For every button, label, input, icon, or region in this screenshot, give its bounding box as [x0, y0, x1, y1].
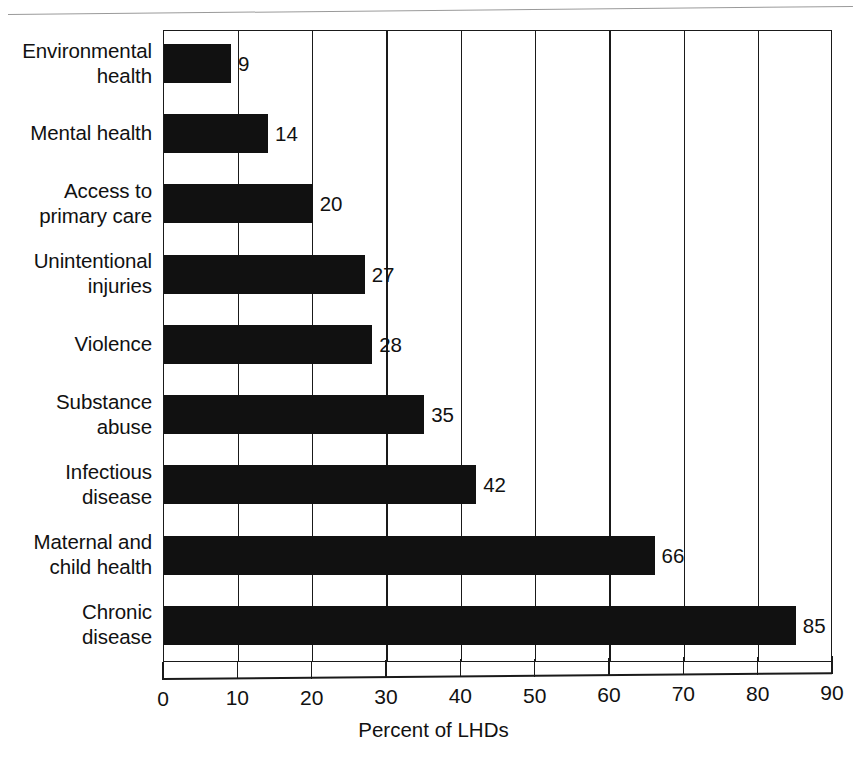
category-label-line: primary care	[0, 203, 152, 228]
x-tick-label-90: 90	[820, 680, 843, 706]
category-label: Access toprimary care	[0, 178, 152, 228]
category-label-line: disease	[0, 624, 152, 649]
bar-chart-figure: EnvironmentalhealthMental healthAccess t…	[0, 0, 867, 767]
x-tick-0	[162, 662, 164, 680]
category-label: Substanceabuse	[0, 389, 152, 439]
x-axis-title: Percent of LHDs	[0, 718, 867, 742]
x-tick-label-40: 40	[449, 683, 472, 709]
plot-area: 91420272835426685	[163, 30, 832, 662]
bar-value-label: 14	[268, 114, 298, 153]
category-label: Unintentionalinjuries	[0, 248, 152, 298]
bar	[164, 44, 231, 83]
bar	[164, 184, 313, 223]
category-label-line: Chronic	[0, 599, 152, 624]
x-tick-70	[683, 657, 685, 675]
x-tick-label-50: 50	[523, 683, 546, 709]
x-tick-label-30: 30	[374, 684, 397, 710]
bar-value-label: 85	[796, 606, 826, 645]
x-tick-label-20: 20	[300, 685, 323, 711]
category-label: Mental health	[0, 120, 152, 145]
x-axis-line	[163, 672, 832, 680]
bar-value-label: 66	[655, 536, 685, 575]
x-tick-50	[534, 659, 536, 677]
category-label-line: Environmental	[0, 38, 152, 63]
category-label-line: Substance	[0, 389, 152, 414]
bar	[164, 325, 372, 364]
category-label: Violence	[0, 331, 152, 356]
category-label: Maternal andchild health	[0, 529, 152, 579]
category-label-line: child health	[0, 554, 152, 579]
x-tick-20	[311, 661, 313, 679]
bar-value-label: 9	[231, 44, 249, 83]
category-label: Infectiousdisease	[0, 459, 152, 509]
bar	[164, 114, 268, 153]
bar	[164, 465, 476, 504]
category-label-line: Mental health	[0, 120, 152, 145]
x-tick-label-70: 70	[672, 681, 695, 707]
category-label-line: Access to	[0, 178, 152, 203]
category-label-line: Infectious	[0, 459, 152, 484]
bar-value-label: 35	[424, 395, 454, 434]
bar	[164, 255, 365, 294]
x-tick-30	[385, 660, 387, 678]
gridline-80	[758, 31, 760, 661]
x-tick-10	[237, 661, 239, 679]
x-tick-label-60: 60	[597, 682, 620, 708]
category-label-line: injuries	[0, 273, 152, 298]
category-label-line: health	[0, 63, 152, 88]
x-tick-label-0: 0	[157, 686, 169, 712]
x-tick-60	[608, 658, 610, 676]
bar	[164, 395, 424, 434]
category-label-line: Maternal and	[0, 529, 152, 554]
category-label-line: Unintentional	[0, 248, 152, 273]
bar	[164, 536, 655, 575]
category-label-line: abuse	[0, 414, 152, 439]
x-tick-label-80: 80	[746, 681, 769, 707]
bar-value-label: 27	[365, 255, 395, 294]
bar-value-label: 20	[313, 184, 343, 223]
category-label-line: disease	[0, 484, 152, 509]
x-tick-label-10: 10	[226, 685, 249, 711]
bar-value-label: 42	[476, 465, 506, 504]
category-label-line: Violence	[0, 331, 152, 356]
x-tick-90	[831, 656, 833, 674]
category-label: Environmentalhealth	[0, 38, 152, 88]
x-tick-80	[757, 657, 759, 675]
bar	[164, 606, 796, 645]
category-label: Chronicdisease	[0, 599, 152, 649]
bar-value-label: 28	[372, 325, 402, 364]
x-tick-40	[460, 659, 462, 677]
category-axis-labels: EnvironmentalhealthMental healthAccess t…	[0, 30, 152, 662]
